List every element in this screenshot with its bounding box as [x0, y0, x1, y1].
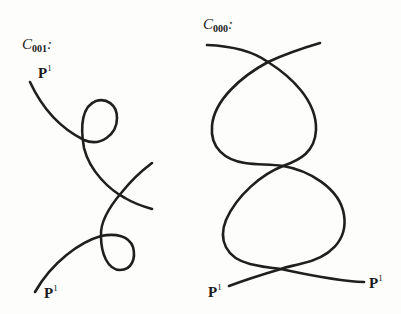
left-bottom-endpoint-label: P1: [44, 283, 58, 302]
left-top-endpoint-label: P1: [38, 63, 52, 82]
left-curve-subscript: 001: [32, 43, 47, 54]
left-upper-curve: [30, 82, 152, 209]
curves-svg: [0, 0, 401, 314]
right-right-endpoint-label: P1: [369, 273, 383, 292]
endpoint-sup: 1: [217, 282, 222, 292]
right-curve-title: C000:: [203, 16, 233, 34]
endpoint-base: P: [38, 65, 47, 81]
left-curve-colon: :: [47, 36, 52, 52]
endpoint-base: P: [208, 284, 217, 300]
endpoint-sup: 1: [378, 273, 383, 283]
right-curve-colon: :: [228, 16, 233, 32]
right-curve-subscript: 000: [213, 23, 228, 34]
endpoint-base: P: [44, 285, 53, 301]
endpoint-sup: 1: [47, 63, 52, 73]
endpoint-base: P: [369, 275, 378, 291]
left-curve-name: C: [22, 36, 32, 52]
left-lower-curve: [35, 163, 152, 292]
right-curve-b: [212, 43, 345, 286]
right-curve-name: C: [203, 16, 213, 32]
diagram-canvas: C001: C000: P1 P1 P1 P1: [0, 0, 401, 314]
endpoint-sup: 1: [53, 283, 58, 293]
right-curve-a: [207, 45, 364, 282]
left-curve-title: C001:: [22, 36, 52, 54]
right-left-endpoint-label: P1: [208, 282, 222, 301]
